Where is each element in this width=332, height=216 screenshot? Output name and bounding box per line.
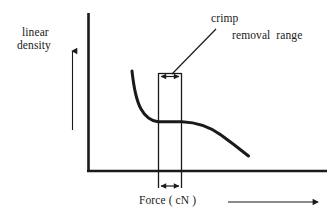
crimp-callout-line1: crimp <box>211 12 238 25</box>
linear-density-curve <box>132 71 249 156</box>
crimp-removal-range-figure: linear density crimp removal range Force… <box>0 0 332 216</box>
y-axis-label-line2: density <box>17 39 51 52</box>
crimp-callout-leader-line <box>172 29 216 74</box>
y-axis-label-line1: linear <box>22 26 49 39</box>
x-axis-label: Force ( cN ) <box>139 194 196 207</box>
crimp-callout-line2: removal range <box>232 29 302 42</box>
